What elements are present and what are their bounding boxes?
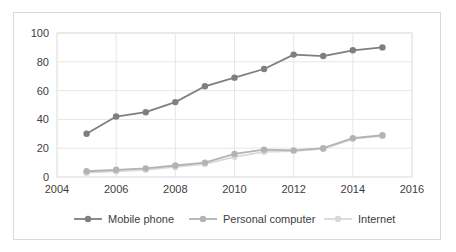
x-tick-label: 2006 — [104, 183, 128, 195]
data-point — [172, 162, 178, 168]
line-chart: 020406080100 200420062008201020122014201… — [14, 13, 440, 239]
data-point — [320, 53, 326, 59]
x-tick-label: 2004 — [45, 183, 69, 195]
data-point — [231, 74, 237, 80]
legend-label: Internet — [358, 213, 395, 225]
data-point — [143, 109, 149, 115]
chart-container: 020406080100 200420062008201020122014201… — [13, 12, 441, 240]
data-point — [113, 113, 119, 119]
data-point — [143, 165, 149, 171]
legend-item-mobile-phone[interactable]: Mobile phone — [74, 213, 174, 225]
legend-marker — [335, 216, 341, 222]
legend-marker — [200, 216, 206, 222]
data-point — [290, 147, 296, 153]
data-point — [113, 167, 119, 173]
x-tick-label: 2010 — [222, 183, 246, 195]
legend-item-internet[interactable]: Internet — [324, 213, 395, 225]
data-point — [379, 44, 385, 50]
legend-label: Mobile phone — [108, 213, 174, 225]
legend-item-personal-computer[interactable]: Personal computer — [189, 213, 316, 225]
y-axis-tick-labels: 020406080100 — [31, 27, 49, 183]
data-point — [202, 83, 208, 89]
y-tick-label: 80 — [37, 56, 49, 68]
y-tick-label: 0 — [43, 171, 49, 183]
x-tick-label: 2016 — [400, 183, 424, 195]
data-point — [290, 51, 296, 57]
data-point — [320, 145, 326, 151]
data-point — [261, 146, 267, 152]
data-point — [83, 131, 89, 137]
legend-marker — [85, 216, 91, 222]
data-point — [379, 132, 385, 138]
x-axis-tick-labels: 2004200620082010201220142016 — [45, 183, 424, 195]
y-tick-label: 100 — [31, 27, 49, 39]
legend-label: Personal computer — [223, 213, 316, 225]
x-tick-label: 2008 — [163, 183, 187, 195]
x-tick-label: 2012 — [281, 183, 305, 195]
y-tick-label: 60 — [37, 85, 49, 97]
data-point — [202, 159, 208, 165]
data-point — [350, 135, 356, 141]
x-tick-label: 2014 — [341, 183, 365, 195]
y-tick-label: 40 — [37, 113, 49, 125]
data-point — [172, 99, 178, 105]
data-point — [83, 168, 89, 174]
data-point — [231, 151, 237, 157]
chart-legend: Mobile phonePersonal computerInternet — [74, 213, 395, 225]
data-point — [350, 47, 356, 53]
y-tick-label: 20 — [37, 142, 49, 154]
data-point — [261, 66, 267, 72]
